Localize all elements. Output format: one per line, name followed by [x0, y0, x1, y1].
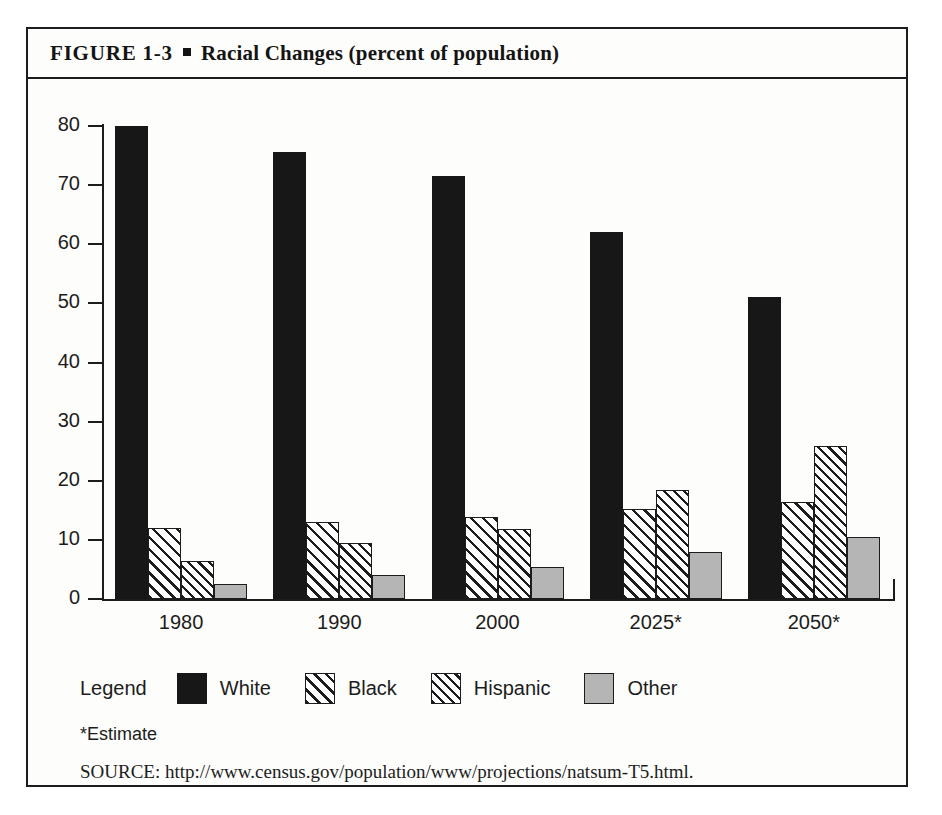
legend-entry-other[interactable]: Other [584, 673, 677, 704]
bar-white-1990 [273, 152, 306, 599]
footnote-text: *Estimate [80, 724, 157, 745]
bar-white-2025 [590, 232, 623, 599]
y-axis-tick [88, 243, 102, 245]
y-axis-tick-label: 20 [28, 469, 80, 489]
y-axis-tick [88, 302, 102, 304]
bar-black-2025 [623, 509, 656, 599]
x-axis-label: 1980 [102, 611, 260, 634]
legend-entry-label: Other [627, 677, 677, 700]
bar-hispanic-2025 [656, 490, 689, 599]
bar-white-2050 [748, 297, 781, 599]
legend-title: Legend [80, 677, 147, 700]
y-axis-tick [88, 184, 102, 186]
y-axis-tick-label: 10 [28, 528, 80, 548]
legend-entry-hispanic[interactable]: Hispanic [431, 673, 551, 704]
legend-entry-label: Hispanic [474, 677, 551, 700]
chart-body: 01020304050607080 1980199020002025*2050*… [28, 79, 906, 785]
bar-group [432, 126, 564, 599]
legend-swatch-icon [305, 673, 335, 704]
legend-swatch-icon [177, 673, 207, 704]
y-axis-tick [88, 125, 102, 127]
figure-box: FIGURE 1-3 Racial Changes (percent of po… [26, 27, 908, 787]
bar-black-2000 [465, 517, 498, 599]
y-axis-tick [88, 362, 102, 364]
y-axis-tick-label: 80 [28, 114, 80, 134]
bar-hispanic-1990 [339, 543, 372, 599]
bar-group [115, 126, 247, 599]
bar-hispanic-2050 [814, 446, 847, 599]
bar-hispanic-1980 [181, 561, 214, 599]
figure-number-label: FIGURE 1-3 [50, 41, 173, 66]
bar-other-2000 [531, 567, 564, 599]
bar-white-1980 [115, 126, 148, 599]
chart-legend: Legend WhiteBlackHispanicOther [80, 673, 712, 704]
x-axis-label: 1990 [260, 611, 418, 634]
bar-black-1980 [148, 528, 181, 599]
y-axis-tick-label: 60 [28, 232, 80, 252]
bar-hispanic-2000 [498, 529, 531, 599]
bar-group [273, 126, 405, 599]
legend-entry-label: Black [348, 677, 397, 700]
y-axis-tick-label: 50 [28, 291, 80, 311]
legend-swatch-icon [584, 673, 614, 704]
legend-entry-label: White [220, 677, 271, 700]
plot-area [102, 126, 893, 599]
bar-other-1990 [372, 575, 405, 599]
legend-entry-white[interactable]: White [177, 673, 271, 704]
y-axis-tick [88, 421, 102, 423]
legend-swatch-icon [431, 673, 461, 704]
bar-other-2025 [689, 552, 722, 599]
bar-group [748, 126, 880, 599]
y-axis-tick-label: 40 [28, 351, 80, 371]
bar-group [590, 126, 722, 599]
bar-black-2050 [781, 502, 814, 599]
figure-title: Racial Changes (percent of population) [201, 41, 559, 66]
bar-other-2050 [847, 537, 880, 599]
plot-right-stub [893, 579, 895, 601]
y-axis-tick-label: 0 [28, 587, 80, 607]
bar-white-2000 [432, 176, 465, 599]
y-axis-tick-label: 70 [28, 173, 80, 193]
figure-title-bar: FIGURE 1-3 Racial Changes (percent of po… [28, 29, 906, 79]
y-axis-tick-label: 30 [28, 410, 80, 430]
bar-other-1980 [214, 584, 247, 599]
y-axis-tick [88, 480, 102, 482]
x-axis-label: 2025* [577, 611, 735, 634]
y-axis-tick [88, 539, 102, 541]
x-axis-label: 2050* [735, 611, 893, 634]
legend-entry-black[interactable]: Black [305, 673, 397, 704]
x-axis-label: 2000 [418, 611, 576, 634]
x-axis-line [102, 599, 895, 601]
source-text: SOURCE: http://www.census.gov/population… [80, 761, 694, 783]
square-bullet-icon [183, 48, 191, 56]
y-axis-tick [88, 598, 102, 600]
bar-black-1990 [306, 522, 339, 599]
